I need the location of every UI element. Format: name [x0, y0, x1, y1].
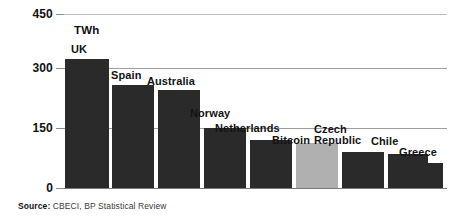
bar-norway [204, 128, 246, 188]
bar-label-netherlands: Netherlands [215, 123, 280, 134]
source-note-prefix: Source: [18, 201, 50, 211]
bar-netherlands [250, 140, 292, 188]
bar-australia [158, 90, 200, 188]
bar-chart-figure: 450 300 150 0 TWh UK Spain Australia Nor… [0, 0, 457, 218]
bar-label-greece: Greece [399, 147, 437, 158]
bar-label-chile: Chile [371, 136, 398, 147]
bars-layer: UK Spain Australia Norway Netherlands Bi… [0, 0, 457, 218]
bar-label-czech-republic-line-2: Republic [314, 135, 361, 146]
bar-spain [112, 85, 154, 188]
bar-label-australia: Australia [147, 76, 195, 87]
bar-greece [405, 163, 443, 188]
bar-bitcoin [296, 143, 338, 188]
bar-label-bitcoin: Bitcoin [272, 135, 310, 146]
bar-label-norway: Norway [190, 108, 230, 119]
bar-czech-republic [342, 152, 384, 188]
source-note: Source: CBECI, BP Statistical Review [18, 201, 166, 211]
bar-label-czech-republic: Czech Republic [314, 124, 361, 146]
source-note-text: CBECI, BP Statistical Review [50, 201, 166, 211]
bar-uk [65, 59, 109, 188]
bar-label-uk: UK [71, 44, 87, 55]
bar-label-spain: Spain [111, 70, 141, 81]
